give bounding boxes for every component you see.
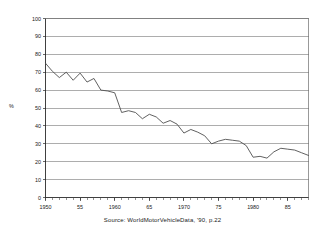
x-tick-label: 1960: [109, 204, 121, 210]
y-axis-title: %: [9, 103, 14, 109]
x-axis-labels-group: 195055196065197075198085: [40, 204, 291, 210]
chart-container: 0102030405060708090100 19505519606519707…: [0, 0, 325, 234]
y-tick-label: 10: [35, 177, 41, 183]
y-axis-labels-group: 0102030405060708090100: [32, 16, 41, 201]
x-tick-label: 85: [285, 204, 291, 210]
y-tick-label: 60: [35, 87, 41, 93]
x-tick-label: 1980: [247, 204, 259, 210]
y-tick-label: 40: [35, 123, 41, 129]
gridlines-group: [46, 19, 309, 180]
y-tick-label: 90: [35, 33, 41, 39]
y-tick-label: 50: [35, 105, 41, 111]
x-tick-label: 65: [146, 204, 152, 210]
y-tick-label: 20: [35, 159, 41, 165]
y-tick-label: 0: [38, 195, 41, 201]
y-tick-label: 80: [35, 51, 41, 57]
y-tick-label: 70: [35, 69, 41, 75]
x-tick-label: 55: [77, 204, 83, 210]
y-tick-label: 100: [32, 16, 41, 22]
source-note: Source: WorldMotorVehicleData, '90, p.22: [104, 217, 222, 223]
x-axis-ticks-group: [46, 198, 288, 201]
x-tick-label: 1950: [40, 204, 52, 210]
line-chart: 0102030405060708090100 19505519606519707…: [0, 0, 325, 234]
x-tick-label: 75: [216, 204, 222, 210]
x-tick-label: 1970: [178, 204, 190, 210]
y-tick-label: 30: [35, 141, 41, 147]
